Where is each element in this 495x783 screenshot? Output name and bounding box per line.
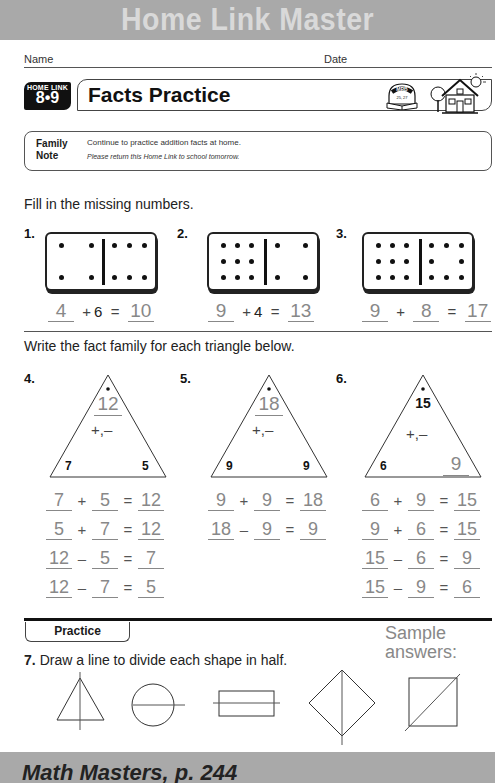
triangle-sum[interactable]: 18 xyxy=(255,393,283,416)
pip xyxy=(89,275,94,280)
operator: + xyxy=(72,521,92,538)
equals-sign: = xyxy=(434,579,454,596)
answer-blank[interactable]: 12 xyxy=(46,577,72,598)
answer-blank[interactable]: 9 xyxy=(254,490,280,511)
sample-line1: Sample xyxy=(385,624,457,643)
fact-equation: 9+9=18 xyxy=(208,490,326,511)
operator: – xyxy=(388,579,408,596)
fact-equation: 12–5=7 xyxy=(46,548,164,569)
triangle-right-number: 5 xyxy=(142,459,149,473)
given-addend: 6 xyxy=(94,303,102,320)
answer-blank[interactable]: 6 xyxy=(408,548,434,569)
given-addend: 4 xyxy=(254,303,262,320)
answer-blank[interactable]: 15 xyxy=(454,519,480,540)
answer-blank[interactable]: 12 xyxy=(138,490,164,511)
equals-sign: = xyxy=(271,303,280,320)
fact-equation: 6+9=15 xyxy=(362,490,480,511)
diamond-shape-halved xyxy=(309,670,375,745)
fact-equation: 9+6=15 xyxy=(362,519,480,540)
equals-sign: = xyxy=(448,303,457,320)
answer-blank[interactable]: 9 xyxy=(208,490,234,511)
triangle-operations: +,– xyxy=(406,425,427,442)
divider-line xyxy=(24,331,492,332)
answer-blank[interactable]: 6 xyxy=(408,519,434,540)
pip xyxy=(142,275,147,280)
answer-blank[interactable]: 4 xyxy=(48,301,74,322)
answer-blank[interactable]: 12 xyxy=(138,519,164,540)
answer-blank[interactable]: 15 xyxy=(362,548,388,569)
pip xyxy=(127,275,132,280)
answer-blank[interactable]: 5 xyxy=(92,490,118,511)
square-shape-halved xyxy=(405,674,460,731)
pip xyxy=(303,275,308,280)
problem-3-number: 3. xyxy=(336,226,347,241)
answer-blank[interactable]: 5 xyxy=(46,519,72,540)
equation-1: 4 +6 = 10 xyxy=(48,300,154,322)
answer-blank[interactable]: 8 xyxy=(413,301,439,322)
pip xyxy=(390,275,395,280)
answer-blank[interactable]: 6 xyxy=(362,490,388,511)
answer-blank[interactable]: 12 xyxy=(46,548,72,569)
answer-blank[interactable]: 9 xyxy=(300,519,326,540)
pip xyxy=(444,243,449,248)
pip xyxy=(89,243,94,248)
family-note-label-line2: Note xyxy=(36,150,68,162)
operator: + xyxy=(388,521,408,538)
plus-sign: + xyxy=(82,303,91,320)
problem-6-number: 6. xyxy=(336,371,347,386)
answer-blank[interactable]: 9 xyxy=(362,519,388,540)
triangle-right-number: 9 xyxy=(303,459,310,473)
fact-triangle-4: 12 +,– 7 5 xyxy=(48,373,168,479)
fact-triangle-6: 15 +,– 6 9 xyxy=(363,373,483,479)
pip xyxy=(390,243,395,248)
answer-blank[interactable]: 9 xyxy=(408,490,434,511)
equals-sign: = xyxy=(118,579,138,596)
pip xyxy=(459,243,464,248)
answer-blank[interactable]: 7 xyxy=(92,577,118,598)
answer-blank[interactable]: 9 xyxy=(254,519,280,540)
question-7-number: 7. xyxy=(24,652,36,668)
answer-blank[interactable]: 9 xyxy=(408,577,434,598)
section1-instruction: Fill in the missing numbers. xyxy=(24,196,194,212)
fact-equation: 18–9=9 xyxy=(208,519,326,540)
plus-sign: + xyxy=(242,303,251,320)
answer-blank[interactable]: 7 xyxy=(138,548,164,569)
banner-title: Home Link Master xyxy=(121,2,374,38)
operator: – xyxy=(72,550,92,567)
domino-divider xyxy=(419,239,422,285)
answer-blank[interactable]: 15 xyxy=(362,577,388,598)
answer-blank[interactable]: 9 xyxy=(208,301,234,322)
triangle-right-answer[interactable]: 9 xyxy=(443,453,469,476)
answer-blank[interactable]: 10 xyxy=(128,301,154,322)
pip xyxy=(376,259,381,264)
pip xyxy=(429,243,434,248)
pip xyxy=(235,259,240,264)
triangle-sum[interactable]: 12 xyxy=(94,393,122,416)
shapes-row xyxy=(0,670,495,752)
pip xyxy=(59,275,64,280)
fact-equation: 12–7=5 xyxy=(46,577,164,598)
pip xyxy=(112,275,117,280)
domino-2 xyxy=(207,232,319,291)
section-divider xyxy=(24,618,492,621)
answer-blank[interactable]: 9 xyxy=(362,301,388,322)
answer-blank[interactable]: 5 xyxy=(138,577,164,598)
answer-blank[interactable]: 18 xyxy=(300,490,326,511)
answer-blank[interactable]: 17 xyxy=(465,301,491,322)
family-note-text: Continue to practice addition facts at h… xyxy=(87,138,241,147)
equals-sign: = xyxy=(111,303,120,320)
answer-blank[interactable]: 7 xyxy=(92,519,118,540)
answer-blank[interactable]: 7 xyxy=(46,490,72,511)
answer-blank[interactable]: 18 xyxy=(208,519,234,540)
domino-divider xyxy=(102,239,105,285)
answer-blank[interactable]: 13 xyxy=(288,301,314,322)
badge-number: 8•9 xyxy=(24,91,71,105)
sample-line2: answers: xyxy=(385,643,457,662)
pip xyxy=(221,259,226,264)
answer-blank[interactable]: 15 xyxy=(454,490,480,511)
equals-sign: = xyxy=(118,521,138,538)
practice-tab: Practice xyxy=(25,622,130,642)
answer-blank[interactable]: 6 xyxy=(454,577,480,598)
answer-blank[interactable]: 5 xyxy=(92,548,118,569)
answer-blank[interactable]: 9 xyxy=(454,548,480,569)
